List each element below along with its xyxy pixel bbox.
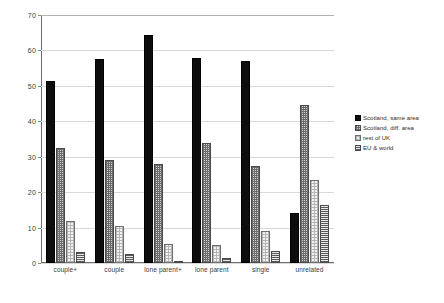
x-axis-label: single (236, 266, 285, 282)
bar (105, 160, 114, 263)
legend-label: EU & world (363, 145, 394, 151)
bar-group (285, 15, 334, 263)
bar (164, 244, 173, 263)
bar (251, 166, 260, 263)
x-axis-labels: couple+couplelone parent+lone parentsing… (41, 266, 334, 282)
legend-swatch-icon (355, 115, 361, 121)
legend-label: Scotland, diff. area (363, 125, 414, 131)
y-axis-tick-label: 0 (32, 260, 36, 267)
y-axis-tick-label: 50 (28, 82, 36, 89)
legend-label: Scotland, same area (363, 115, 419, 121)
bar (66, 221, 75, 264)
bar (174, 261, 183, 263)
legend-item[interactable]: Scotland, diff. area (355, 123, 439, 133)
bar (261, 231, 270, 263)
legend-swatch-icon (355, 135, 361, 141)
bar (125, 254, 134, 263)
x-axis-label: couple+ (41, 266, 90, 282)
bar (95, 59, 104, 263)
legend-item[interactable]: rest of UK (355, 133, 439, 143)
plot-area: 010203040506070 (41, 15, 334, 263)
bar (212, 245, 221, 263)
bar (144, 35, 153, 264)
x-axis-label: unrelated (285, 266, 334, 282)
y-axis-tick-label: 30 (28, 153, 36, 160)
bar (320, 205, 329, 263)
chart-legend: Scotland, same areaScotland, diff. arear… (353, 112, 441, 154)
gridline (41, 263, 334, 264)
bar (290, 213, 299, 263)
bar (241, 61, 250, 263)
bar (310, 180, 319, 263)
legend-item[interactable]: EU & world (355, 143, 439, 153)
legend-label: rest of UK (363, 135, 390, 141)
y-axis-tick-label: 60 (28, 47, 36, 54)
bar (46, 81, 55, 263)
bar-group (139, 15, 188, 263)
bar (192, 58, 201, 263)
bar (222, 258, 231, 263)
y-axis-tick-label: 70 (28, 12, 36, 19)
y-axis-tick-label: 20 (28, 189, 36, 196)
y-axis-tick-label: 10 (28, 224, 36, 231)
bar (56, 148, 65, 263)
bar-chart: 010203040506070 couple+couplelone parent… (0, 0, 444, 303)
y-axis-tick-label: 40 (28, 118, 36, 125)
bar (115, 226, 124, 263)
bar (202, 143, 211, 263)
bar-groups (41, 15, 334, 263)
bar-group (236, 15, 285, 263)
x-axis-label: lone parent+ (139, 266, 188, 282)
bar-group (90, 15, 139, 263)
legend-swatch-icon (355, 125, 361, 131)
bar-group (41, 15, 90, 263)
x-axis-label: couple (90, 266, 139, 282)
legend-item[interactable]: Scotland, same area (355, 113, 439, 123)
bar-group (187, 15, 236, 263)
x-axis-label: lone parent (187, 266, 236, 282)
bar (76, 252, 85, 263)
bar (300, 105, 309, 263)
legend-swatch-icon (355, 145, 361, 151)
bar (271, 251, 280, 263)
y-axis-tick (38, 263, 41, 264)
bar (154, 164, 163, 263)
